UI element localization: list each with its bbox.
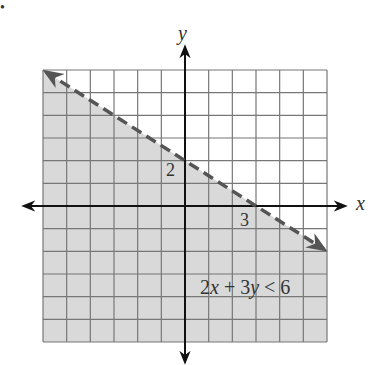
inequality-graph [0, 0, 378, 365]
x-axis-label: x [356, 192, 365, 215]
x-intercept-label: 3 [240, 210, 249, 231]
y-axis-label: y [178, 22, 187, 45]
y-intercept-label: 2 [166, 160, 175, 181]
inequality-label: 2x + 3y < 6 [200, 276, 290, 299]
